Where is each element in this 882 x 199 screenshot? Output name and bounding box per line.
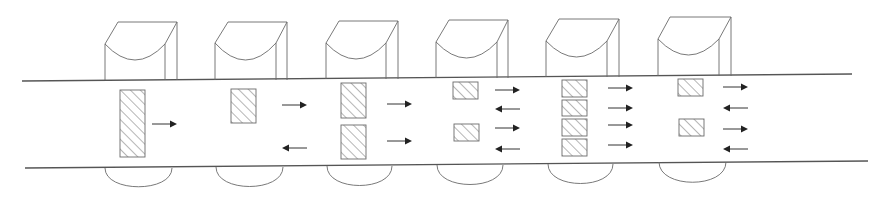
roadside-unit-5 xyxy=(546,19,633,184)
housing-curved-face xyxy=(105,44,165,60)
vehicle-1 xyxy=(678,79,703,96)
direction-arrow-right-icon xyxy=(495,87,520,94)
roadside-unit-4 xyxy=(436,20,520,185)
roadside-units xyxy=(105,17,748,187)
upper-unit-housing xyxy=(215,22,287,80)
direction-arrow-right-icon xyxy=(608,122,633,129)
lower-unit-housing xyxy=(548,164,613,184)
direction-arrow-right-icon xyxy=(608,142,633,149)
direction-arrow-right-icon xyxy=(723,126,748,133)
vehicle-1 xyxy=(341,83,366,118)
direction-arrow-left-icon xyxy=(282,145,307,152)
direction-arrow-right-icon xyxy=(495,125,520,132)
road-edge-top xyxy=(22,74,852,81)
housing-top-outline xyxy=(658,17,731,39)
housing-curved-face xyxy=(326,43,386,59)
roadside-unit-6 xyxy=(658,17,748,182)
upper-unit-housing xyxy=(658,17,731,76)
vehicle-1 xyxy=(453,82,478,99)
upper-unit-housing xyxy=(326,21,398,79)
lower-unit-housing xyxy=(327,166,392,186)
road-diagram xyxy=(0,0,882,199)
roadside-unit-2 xyxy=(215,22,307,187)
lower-unit-housing xyxy=(659,162,726,182)
direction-arrow-left-icon xyxy=(495,106,520,113)
vehicle-4 xyxy=(562,139,587,156)
direction-arrow-left-icon xyxy=(495,146,520,153)
roadside-unit-1 xyxy=(105,22,177,187)
vehicle-1 xyxy=(231,89,256,123)
housing-top-outline xyxy=(105,22,177,44)
vehicle-2 xyxy=(454,124,479,141)
upper-unit-housing xyxy=(436,20,508,78)
vehicle-1 xyxy=(562,80,587,97)
vehicle-2 xyxy=(341,125,366,159)
housing-curved-face xyxy=(546,41,607,57)
direction-arrow-right-icon xyxy=(387,138,412,145)
direction-arrow-right-icon xyxy=(608,85,633,92)
housing-top-outline xyxy=(436,20,508,42)
housing-curved-face xyxy=(658,39,719,55)
vehicle-2 xyxy=(562,100,587,116)
housing-top-outline xyxy=(546,19,619,41)
vehicle-3 xyxy=(562,119,587,136)
direction-arrow-left-icon xyxy=(723,146,748,153)
lower-unit-housing xyxy=(216,167,283,187)
lower-unit-housing xyxy=(437,165,503,185)
upper-unit-housing xyxy=(546,19,619,77)
housing-top-outline xyxy=(215,22,287,43)
diagram-canvas xyxy=(0,0,882,199)
direction-arrow-right-icon xyxy=(152,121,177,128)
direction-arrow-right-icon xyxy=(282,102,307,109)
vehicle-1 xyxy=(120,90,145,157)
housing-curved-face xyxy=(436,42,497,58)
roadside-unit-3 xyxy=(326,21,412,186)
vehicle-2 xyxy=(679,119,704,136)
lower-unit-housing xyxy=(105,168,172,187)
direction-arrow-right-icon xyxy=(723,84,748,91)
upper-unit-housing xyxy=(105,22,177,80)
housing-top-outline xyxy=(326,21,398,43)
direction-arrow-right-icon xyxy=(608,105,633,112)
housing-curved-face xyxy=(215,43,276,60)
direction-arrow-left-icon xyxy=(723,105,748,112)
road-edge-bottom xyxy=(25,161,868,168)
direction-arrow-right-icon xyxy=(387,101,412,108)
